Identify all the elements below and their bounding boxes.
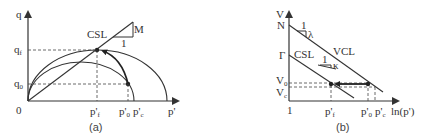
panel-b-v-lnp-plot: V ln(p') 1 N Γ V0 Vc p'f p'0 p'c CSL VCL… xyxy=(276,8,415,133)
csl-label-b: CSL xyxy=(294,48,314,60)
point-failure-b xyxy=(329,82,333,86)
n-label: N xyxy=(277,19,285,31)
panel-a-q-p-plot: q p' 0 qf q0 p'f p'0 p'c CSL M 1 (a) xyxy=(14,8,178,133)
p0-label: p'0 xyxy=(119,105,130,119)
origin-label: 0 xyxy=(16,104,22,116)
pc-label: p'c xyxy=(133,105,144,119)
csl-label-a: CSL xyxy=(87,28,107,40)
p0-label-b: p'0 xyxy=(361,105,372,119)
caption-b: (b) xyxy=(336,121,349,133)
slope-m-label: M xyxy=(134,23,144,35)
vc-label: Vc xyxy=(276,86,287,100)
pf-label-b: p'f xyxy=(325,105,335,119)
pf-label: p'f xyxy=(90,105,100,119)
caption-a: (a) xyxy=(89,121,102,133)
lnp-axis-label: ln(p') xyxy=(391,105,415,118)
point-initial-b xyxy=(366,82,370,86)
vcl-label: VCL xyxy=(333,45,355,57)
q-axis-label: q xyxy=(16,8,22,20)
kappa-label: κ xyxy=(333,59,339,71)
lambda-run-label: 1 xyxy=(301,19,307,31)
gamma-label: Γ xyxy=(279,49,285,61)
origin-label-b: 1 xyxy=(287,104,293,116)
qf-label: qf xyxy=(14,43,23,57)
pc-label-b: p'c xyxy=(375,105,386,119)
kappa-run-label: 1 xyxy=(322,53,328,65)
p-axis-label: p' xyxy=(168,105,176,117)
yield-surface-large xyxy=(28,50,167,101)
lambda-label: λ xyxy=(308,28,314,40)
q0-label: q0 xyxy=(14,77,24,91)
diagram-canvas: q p' 0 qf q0 p'f p'0 p'c CSL M 1 (a) xyxy=(0,0,429,139)
slope-run-label-a: 1 xyxy=(121,37,127,49)
